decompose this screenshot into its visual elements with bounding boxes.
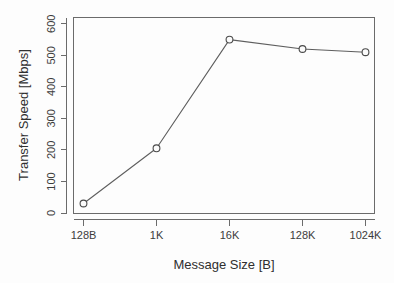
y-axis-title: Transfer Speed [Mbps] [16,49,31,181]
x-axis-title: Message Size [B] [173,257,274,272]
x-tick-label: 16K [220,229,240,241]
x-tick-marks [84,220,366,226]
y-tick-label: 400 [45,78,57,96]
data-point [80,200,87,207]
data-point [153,145,160,152]
data-point [226,36,233,43]
y-tick-label: 600 [45,15,57,33]
y-tick-label: 0 [45,210,57,216]
line-chart: 0 100 200 300 400 500 600 128B 1K 16K 12… [0,0,394,283]
x-tick-labels: 128B 1K 16K 128K 1024K [71,229,382,241]
y-tick-marks [61,24,67,213]
y-tick-label: 100 [45,172,57,190]
data-point-markers [80,36,369,207]
x-tick-label: 1K [150,229,164,241]
x-tick-label: 128K [290,229,316,241]
data-line-transfer-speed [84,40,366,204]
data-point [299,46,306,53]
x-tick-label: 128B [71,229,97,241]
y-tick-label: 200 [45,141,57,159]
data-point [362,49,369,56]
chart-figure: 0 100 200 300 400 500 600 128B 1K 16K 12… [0,0,394,283]
y-tick-label: 300 [45,109,57,127]
y-tick-labels: 0 100 200 300 400 500 600 [45,15,57,216]
y-tick-label: 500 [45,46,57,64]
x-tick-label: 1024K [350,229,382,241]
